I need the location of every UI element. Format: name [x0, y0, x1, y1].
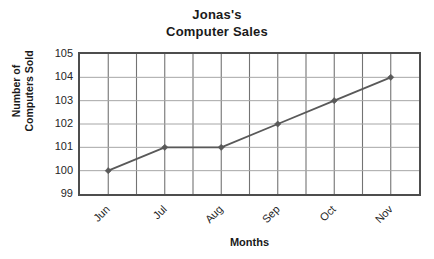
- chart-title: Jonas's Computer Sales: [0, 6, 434, 40]
- y-axis-tick-label: 104: [34, 71, 73, 82]
- y-axis-tick-label: 101: [34, 141, 73, 152]
- chart-title-line-2: Computer Sales: [0, 23, 434, 40]
- series-polyline: [108, 77, 391, 170]
- data-point-marker: [388, 74, 394, 80]
- y-axis-title-line-1: Number of: [10, 21, 23, 161]
- data-point-marker: [162, 144, 168, 150]
- x-axis-title: Months: [78, 236, 421, 248]
- y-axis-tick-label: 103: [34, 95, 73, 106]
- y-axis-tick-labels: 10510410310210110099: [34, 52, 73, 196]
- plot-area: [78, 52, 421, 196]
- y-axis-title: Number of Computers Sold: [10, 21, 36, 161]
- y-axis-tick-label: 99: [34, 188, 73, 199]
- y-axis-tick-label: 102: [34, 118, 73, 129]
- y-axis-tick-label: 100: [34, 165, 73, 176]
- data-point-marker: [331, 98, 337, 104]
- chart-title-line-1: Jonas's: [0, 6, 434, 23]
- data-point-marker: [275, 121, 281, 127]
- data-series-line: [80, 54, 419, 194]
- y-axis-tick-label: 105: [34, 48, 73, 59]
- data-point-marker: [218, 144, 224, 150]
- x-axis-tick-labels: JunJulAugSepOctNov: [78, 196, 421, 236]
- data-point-marker: [105, 168, 111, 174]
